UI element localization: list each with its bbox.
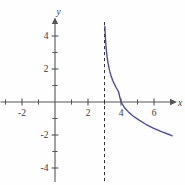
function-curve — [105, 26, 172, 136]
x-axis-tick-label: 2 — [86, 108, 91, 118]
x-axis-arrow — [170, 99, 177, 105]
plot-canvas: -224642-2-4xy — [0, 0, 185, 185]
x-axis-tick-label: 6 — [152, 108, 157, 118]
y-axis-label: y — [55, 7, 61, 17]
y-axis-tick-label: -4 — [41, 163, 49, 173]
y-axis-arrow — [52, 18, 58, 25]
x-axis-tick-label: -2 — [18, 108, 26, 118]
y-axis-tick-label: 4 — [44, 31, 49, 41]
y-axis-tick-label: -2 — [41, 130, 49, 140]
function-graph-figure: -224642-2-4xy — [0, 0, 185, 185]
x-axis-tick-label: 4 — [119, 108, 124, 118]
y-axis-tick-label: 2 — [44, 64, 49, 74]
x-axis-label: x — [177, 98, 183, 108]
